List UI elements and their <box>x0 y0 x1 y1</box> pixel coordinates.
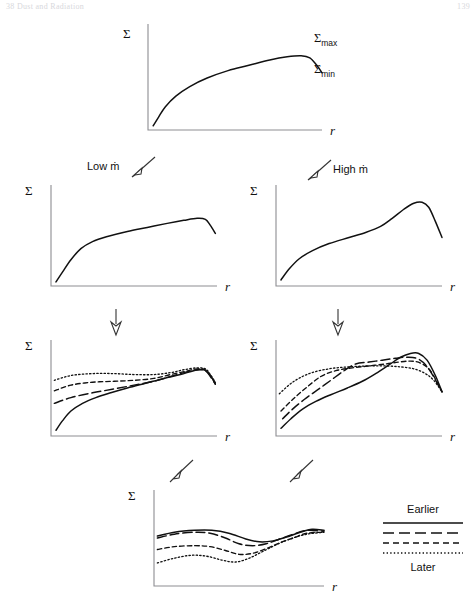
panel-high-mdot-series <box>281 202 442 280</box>
high-mdot-label: High ṁ <box>333 163 368 175</box>
panel-low-mdot-y-label: Σ <box>25 183 33 199</box>
panel-high-mdot: Σ r <box>270 183 455 296</box>
panel-high-mdot-evolution-series <box>279 353 442 429</box>
panel-low-mdot-evolution-axes <box>51 340 217 436</box>
page-header-left: 38 Dust and Radiation <box>6 2 84 11</box>
arrow-high-mdot-evolution <box>330 308 346 336</box>
low-mdot-label: Low ṁ <box>87 160 119 172</box>
high-mdot-curve <box>281 202 442 280</box>
legend-earlier-label: Earlier <box>381 503 465 515</box>
panel-high-mdot-evolution-x-label: r <box>450 429 455 445</box>
legend: Earlier Later <box>381 503 465 573</box>
latest-curve <box>281 353 442 429</box>
panel-top: Σ r <box>140 22 336 140</box>
arrow-merge-left <box>168 458 196 484</box>
panel-low-mdot-axes <box>51 185 217 286</box>
steady-curve <box>153 56 322 126</box>
panel-low-mdot-plot <box>45 183 230 296</box>
panel-low-mdot-evolution-x-label: r <box>225 429 230 445</box>
panel-high-mdot-evolution: Σ r <box>270 338 455 446</box>
panel-high-mdot-axes <box>276 185 442 286</box>
panel-top-y-label: Σ <box>123 26 131 42</box>
sigma-max-label: Σmax <box>314 31 337 48</box>
low-mdot-curve <box>56 218 215 282</box>
panel-high-mdot-evolution-y-label: Σ <box>250 338 258 354</box>
panel-high-mdot-evolution-plot <box>270 338 455 446</box>
legend-later-label: Later <box>381 561 465 573</box>
panel-top-series <box>153 56 322 126</box>
panel-top-axes <box>148 24 322 130</box>
legend-swatches <box>381 518 465 558</box>
panel-low-mdot-evolution-plot <box>45 338 230 446</box>
panel-low-mdot-x-label: r <box>225 279 230 295</box>
panel-low-mdot-evolution: Σ r <box>45 338 230 446</box>
panel-high-mdot-evolution-axes <box>276 340 442 436</box>
panel-low-mdot-evolution-y-label: Σ <box>25 338 33 354</box>
early-curve <box>281 361 442 411</box>
page-header-right: 139 <box>457 2 470 11</box>
panel-top-plot <box>140 22 336 140</box>
panel-high-mdot-x-label: r <box>450 279 455 295</box>
arrow-low-mdot-evolution <box>108 308 124 336</box>
panel-bottom-y-label: Σ <box>128 488 136 504</box>
panel-bottom-axes <box>154 490 324 586</box>
panel-low-mdot-evolution-series <box>54 368 215 430</box>
panel-bottom: Σ r <box>148 488 338 596</box>
latest-curve <box>56 369 215 430</box>
sigma-min-subscript: min <box>321 69 335 79</box>
arrow-to-low-mdot <box>130 155 158 179</box>
panel-top-x-label: r <box>330 123 335 139</box>
arrow-merge-right <box>288 458 316 484</box>
sigma-min-label: Σmin <box>314 62 335 79</box>
panel-high-mdot-y-label: Σ <box>250 183 258 199</box>
panel-bottom-x-label: r <box>332 579 337 595</box>
panel-high-mdot-plot <box>270 183 455 296</box>
arrow-to-high-mdot <box>306 158 334 182</box>
sigma-max-subscript: max <box>321 38 337 48</box>
panel-bottom-plot <box>148 488 338 596</box>
panel-low-mdot-series <box>56 218 215 282</box>
figure-page: 38 Dust and Radiation 139 Σ r Σmax Σmin … <box>0 0 476 615</box>
panel-low-mdot: Σ r <box>45 183 230 296</box>
panel-bottom-series <box>157 529 324 563</box>
